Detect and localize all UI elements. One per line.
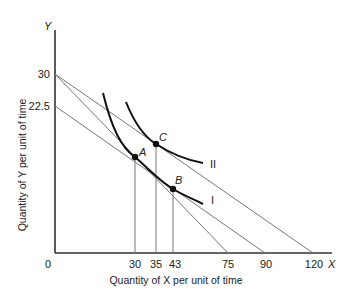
budget-line-30-120 [55, 74, 313, 253]
x-tick-120: 120 [305, 258, 323, 270]
indifference-diagram: A B C II I Y X 30 22.5 0 30 35 43 75 90 … [0, 0, 356, 305]
y-axis-title: Quantity of Y per unit of time [16, 98, 28, 231]
x-tick-35: 35 [150, 258, 162, 270]
point-a-label: A [138, 146, 146, 158]
point-b-label: B [175, 174, 182, 186]
y-tick-30: 30 [38, 68, 50, 80]
curve-i-label: I [211, 194, 214, 206]
curve-ii-label: II [210, 158, 216, 170]
x-axis-title: Quantity of X per unit of time [109, 274, 242, 286]
x-axis-letter: X [327, 258, 336, 270]
point-a [132, 154, 138, 160]
origin-label: 0 [45, 258, 51, 270]
point-b [170, 186, 176, 192]
indifference-curve-i [103, 93, 203, 204]
x-tick-75: 75 [222, 258, 234, 270]
point-c-label: C [159, 131, 167, 143]
y-axis-letter: Y [44, 20, 52, 32]
x-tick-90: 90 [260, 258, 272, 270]
y-tick-22.5: 22.5 [29, 100, 50, 112]
x-tick-43: 43 [169, 258, 181, 270]
x-tick-30: 30 [129, 258, 141, 270]
